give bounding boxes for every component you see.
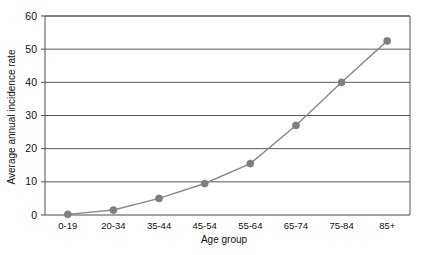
x-axis-category-label: 0-19 bbox=[58, 220, 77, 231]
y-axis-tick-label: 50 bbox=[25, 43, 37, 55]
x-axis-category-label: 20-34 bbox=[101, 220, 125, 231]
y-axis-tick-label: 10 bbox=[25, 175, 37, 187]
data-point-marker bbox=[155, 195, 162, 202]
x-axis-title: Age group bbox=[201, 234, 248, 245]
y-axis-tick-label: 30 bbox=[25, 109, 37, 121]
data-point-marker bbox=[292, 122, 299, 129]
x-axis-category-label: 85+ bbox=[379, 220, 396, 231]
line-chart: 0102030405060 0-1920-3435-4445-5455-6465… bbox=[0, 0, 426, 255]
y-axis-tick-label: 60 bbox=[25, 10, 37, 22]
x-axis-category-label: 55-64 bbox=[238, 220, 262, 231]
data-point-marker bbox=[338, 79, 345, 86]
data-point-marker bbox=[64, 211, 71, 218]
chart-container: 0102030405060 0-1920-3435-4445-5455-6465… bbox=[0, 0, 426, 255]
x-axis-category-label: 75-84 bbox=[329, 220, 353, 231]
y-axis-title: Average annual incidence rate bbox=[6, 49, 17, 184]
data-point-marker bbox=[247, 160, 254, 167]
data-point-marker bbox=[110, 206, 117, 213]
chart-background bbox=[0, 0, 426, 255]
y-axis-tick-label: 40 bbox=[25, 76, 37, 88]
x-axis-category-label: 45-54 bbox=[193, 220, 217, 231]
x-axis-category-label: 65-74 bbox=[284, 220, 308, 231]
y-axis-tick-label: 20 bbox=[25, 142, 37, 154]
x-axis-category-label: 35-44 bbox=[147, 220, 171, 231]
data-point-marker bbox=[384, 37, 391, 44]
y-axis-tick-label: 0 bbox=[31, 209, 37, 221]
data-point-marker bbox=[201, 180, 208, 187]
